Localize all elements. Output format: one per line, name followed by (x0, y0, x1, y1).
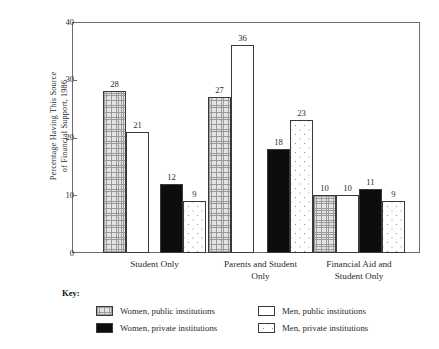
y-axis-tick-label: 0 (44, 248, 74, 259)
y-axis-tick-label: 40 (44, 17, 74, 28)
legend-swatch (258, 306, 275, 316)
legend-label: Women, private institutions (120, 323, 217, 333)
bar: 18 (267, 149, 290, 253)
y-axis-tick-mark (72, 195, 77, 196)
legend-swatch (258, 323, 275, 333)
x-axis-category-line: Student Only (289, 270, 429, 282)
bar-value-label: 12 (167, 172, 176, 182)
legend-swatch (96, 306, 113, 316)
bar: 11 (359, 189, 382, 253)
y-axis-tick-label: 20 (44, 132, 74, 143)
y-axis-title-line-2: of Financial Support, 1986 (59, 80, 70, 172)
y-axis-tick-mark (72, 138, 77, 139)
bar: 10 (313, 195, 336, 253)
bar-value-label: 27 (215, 85, 224, 95)
y-axis-title: Percentage Having This Source of Financi… (44, 6, 74, 246)
bar-value-label: 11 (366, 177, 374, 187)
legend-label: Men, private institutions (282, 323, 368, 333)
y-axis-tick-mark (72, 80, 77, 81)
x-axis-category-label: Financial Aid andStudent Only (289, 258, 429, 282)
bar-value-label: 9 (192, 189, 196, 199)
y-axis-tick-label: 30 (44, 74, 74, 85)
bar-value-label: 21 (133, 120, 142, 130)
y-axis-title-line-1: Percentage Having This Source (48, 72, 59, 181)
y-axis-tick-label: 10 (44, 190, 74, 201)
bar: 10 (336, 195, 359, 253)
bar-value-label: 36 (238, 33, 247, 43)
bar: 27 (208, 97, 231, 253)
bar: 23 (290, 120, 313, 253)
legend-item: Women, public institutions (96, 304, 215, 318)
bar: 12 (160, 184, 183, 253)
bar-value-label: 28 (110, 79, 119, 89)
bar: 28 (103, 91, 126, 253)
x-axis-category-line: Financial Aid and (289, 258, 429, 270)
legend-swatch (96, 323, 113, 333)
legend-title: Key: (62, 288, 80, 298)
bar-value-label: 23 (297, 108, 306, 118)
legend-item: Men, private institutions (258, 321, 368, 335)
legend-item: Women, private institutions (96, 321, 217, 335)
bar: 36 (231, 45, 254, 253)
legend-label: Men, public institutions (282, 306, 366, 316)
bar-chart-figure: Percentage Having This Source of Financi… (0, 0, 439, 349)
bar: 21 (126, 132, 149, 253)
bar-value-label: 10 (320, 183, 329, 193)
legend-label: Women, public institutions (120, 306, 215, 316)
bar: 9 (382, 201, 405, 253)
bar-value-label: 10 (343, 183, 352, 193)
legend-item: Men, public institutions (258, 304, 366, 318)
bar-value-label: 9 (391, 189, 395, 199)
bar: 9 (183, 201, 206, 253)
legend: Key: Women, public institutionsWomen, pr… (62, 288, 434, 346)
bar-value-label: 18 (274, 137, 283, 147)
